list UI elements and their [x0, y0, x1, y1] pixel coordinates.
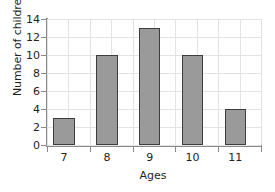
- x-tick-label: 7: [47, 152, 81, 164]
- y-tick-label-text: 10: [10, 50, 40, 61]
- y-tick-label: 8: [4, 68, 40, 79]
- y-tick-mark: [41, 19, 47, 20]
- y-tick-mark: [41, 109, 47, 110]
- bar: [53, 118, 74, 145]
- y-tick-label: 2: [4, 122, 40, 133]
- y-tick-label-text: 0: [10, 140, 40, 151]
- y-tick-label: 6: [4, 86, 40, 97]
- gridline-vertical: [218, 19, 219, 145]
- x-tick-label: 9: [133, 152, 167, 164]
- y-tick-label-text: 4: [10, 104, 40, 115]
- y-tick-label-text: 6: [10, 86, 40, 97]
- gridline-vertical: [261, 19, 262, 145]
- y-tick-mark: [41, 37, 47, 38]
- y-tick-mark: [41, 91, 47, 92]
- y-tick-label-text: 12: [10, 32, 40, 43]
- bar: [225, 109, 246, 145]
- plot-area: [47, 19, 261, 145]
- y-tick-label: 10: [4, 50, 40, 61]
- x-tick-label: 10: [176, 152, 210, 164]
- y-tick-label: 12: [4, 32, 40, 43]
- x-axis-title: Ages: [42, 170, 264, 182]
- gridline-vertical: [47, 19, 48, 145]
- bar-chart: Number of children 02468101214 7891011 A…: [0, 0, 275, 192]
- x-tick-label: 8: [90, 152, 124, 164]
- y-tick-label-text: 14: [10, 14, 40, 25]
- x-tick-mark: [261, 147, 262, 152]
- gridline-vertical: [133, 19, 134, 145]
- gridline-horizontal: [47, 145, 261, 146]
- y-tick-mark: [41, 145, 47, 146]
- y-tick-mark: [41, 73, 47, 74]
- gridline-vertical: [90, 19, 91, 145]
- bar: [139, 28, 160, 145]
- bar: [96, 55, 117, 145]
- y-tick-label: 4: [4, 104, 40, 115]
- y-tick-mark: [41, 127, 47, 128]
- y-tick-mark: [41, 55, 47, 56]
- bar: [182, 55, 203, 145]
- y-tick-label: 0: [4, 140, 40, 151]
- gridline-vertical: [175, 19, 176, 145]
- y-tick-label-text: 2: [10, 122, 40, 133]
- y-tick-label-text: 8: [10, 68, 40, 79]
- y-tick-label: 14: [4, 14, 40, 25]
- x-tick-label: 11: [218, 152, 252, 164]
